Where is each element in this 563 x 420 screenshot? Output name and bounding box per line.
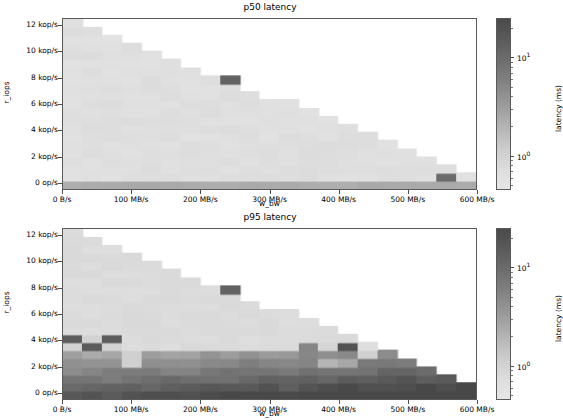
y-tick-label: 4 kop/s bbox=[4, 126, 58, 134]
x-axis-label-p50: w_bw bbox=[62, 199, 477, 208]
colorbar-minor-tick bbox=[511, 283, 513, 284]
y-tick-label: 2 kop/s bbox=[4, 363, 58, 371]
colorbar-minor-tick bbox=[511, 297, 513, 298]
colorbar-ticks-p95: 101100 bbox=[496, 228, 556, 400]
y-tick-label: 12 kop/s bbox=[4, 231, 58, 239]
y-tick-label: 0 op/s bbox=[4, 179, 58, 187]
colorbar-label-p95: latency (ms) bbox=[554, 284, 563, 354]
x-tick-mark bbox=[62, 400, 63, 404]
x-tick-mark bbox=[200, 190, 201, 194]
panel-title-p95: p95 latency bbox=[62, 212, 478, 223]
y-tick-mark bbox=[58, 51, 62, 52]
y-tick-mark bbox=[58, 288, 62, 289]
y-axis-label-p50: r_iops bbox=[2, 63, 11, 123]
colorbar-tick-label: 101 bbox=[517, 51, 530, 63]
colorbar-minor-tick bbox=[511, 388, 513, 389]
colorbar-minor-tick bbox=[511, 370, 513, 371]
colorbar-minor-tick bbox=[511, 160, 513, 161]
colorbar-label-p50: latency (ms) bbox=[554, 74, 563, 144]
colorbar-minor-tick bbox=[511, 87, 513, 88]
colorbar-minor-tick bbox=[511, 381, 513, 382]
colorbar-minor-tick bbox=[511, 395, 513, 396]
y-tick-mark bbox=[58, 104, 62, 105]
x-axis-label-p95: w_bw bbox=[62, 409, 477, 418]
y-tick-label: 10 kop/s bbox=[4, 47, 58, 55]
y-tick-label: 8 kop/s bbox=[4, 74, 58, 82]
x-tick-mark bbox=[339, 400, 340, 404]
heatmap-cells-p50 bbox=[63, 19, 476, 189]
y-tick-label: 12 kop/s bbox=[4, 21, 58, 29]
colorbar-tick-label: 100 bbox=[517, 150, 530, 162]
y-tick-label: 10 kop/s bbox=[4, 257, 58, 265]
colorbar-minor-tick bbox=[511, 73, 513, 74]
colorbar-minor-tick bbox=[511, 96, 513, 97]
y-tick-mark bbox=[58, 314, 62, 315]
y-tick-mark bbox=[58, 78, 62, 79]
colorbar-tick-mark bbox=[511, 267, 514, 268]
colorbar-tick-mark bbox=[511, 366, 514, 367]
y-tick-mark bbox=[58, 393, 62, 394]
colorbar-minor-tick bbox=[511, 126, 513, 127]
colorbar-minor-tick bbox=[511, 336, 513, 337]
x-tick-mark bbox=[477, 400, 478, 404]
y-tick-label: 0 op/s bbox=[4, 389, 58, 397]
panel-p50-latency: p50 latency 12 kop/s10 kop/s8 kop/s6 kop… bbox=[0, 0, 560, 210]
colorbar-minor-tick bbox=[511, 67, 513, 68]
x-tick-mark bbox=[131, 400, 132, 404]
colorbar-minor-tick bbox=[511, 109, 513, 110]
panel-title-p50: p50 latency bbox=[62, 2, 478, 13]
heatmap-axes-p50[interactable] bbox=[62, 18, 477, 190]
x-tick-mark bbox=[339, 190, 340, 194]
colorbar-tick-mark bbox=[511, 57, 514, 58]
x-tick-mark bbox=[62, 190, 63, 194]
colorbar-minor-tick bbox=[511, 185, 513, 186]
colorbar-minor-tick bbox=[511, 238, 513, 239]
colorbar-minor-tick bbox=[511, 79, 513, 80]
y-tick-mark bbox=[58, 157, 62, 158]
colorbar-minor-tick bbox=[511, 319, 513, 320]
colorbar-minor-tick bbox=[511, 171, 513, 172]
y-tick-mark bbox=[58, 261, 62, 262]
colorbar-minor-tick bbox=[511, 306, 513, 307]
colorbar-minor-tick bbox=[511, 28, 513, 29]
y-tick-label: 6 kop/s bbox=[4, 100, 58, 108]
x-tick-mark bbox=[408, 400, 409, 404]
panel-p95-latency: p95 latency 12 kop/s10 kop/s8 kop/s6 kop… bbox=[0, 210, 560, 420]
y-tick-label: 6 kop/s bbox=[4, 310, 58, 318]
colorbar-minor-tick bbox=[511, 165, 513, 166]
y-tick-label: 2 kop/s bbox=[4, 153, 58, 161]
colorbar-minor-tick bbox=[511, 277, 513, 278]
x-tick-mark bbox=[270, 400, 271, 404]
heatmap-cells-p95 bbox=[63, 229, 476, 399]
x-tick-mark bbox=[131, 190, 132, 194]
y-tick-mark bbox=[58, 183, 62, 184]
x-tick-mark bbox=[200, 400, 201, 404]
colorbar-tick-mark bbox=[511, 156, 514, 157]
y-tick-mark bbox=[58, 367, 62, 368]
colorbar-ticks-p50: 101100 bbox=[496, 18, 556, 190]
colorbar-minor-tick bbox=[511, 375, 513, 376]
y-tick-label: 4 kop/s bbox=[4, 336, 58, 344]
x-tick-mark bbox=[477, 190, 478, 194]
y-axis-label-p95: r_iops bbox=[2, 273, 11, 333]
x-tick-mark bbox=[270, 190, 271, 194]
y-tick-label: 8 kop/s bbox=[4, 284, 58, 292]
colorbar-tick-label: 101 bbox=[517, 261, 530, 273]
y-tick-mark bbox=[58, 235, 62, 236]
colorbar-minor-tick bbox=[511, 272, 513, 273]
x-tick-mark bbox=[408, 190, 409, 194]
colorbar-minor-tick bbox=[511, 62, 513, 63]
heatmap-axes-p95[interactable] bbox=[62, 228, 477, 400]
colorbar-tick-label: 100 bbox=[517, 360, 530, 372]
colorbar-minor-tick bbox=[511, 178, 513, 179]
colorbar-minor-tick bbox=[511, 289, 513, 290]
y-tick-mark bbox=[58, 25, 62, 26]
y-tick-mark bbox=[58, 130, 62, 131]
y-tick-mark bbox=[58, 340, 62, 341]
